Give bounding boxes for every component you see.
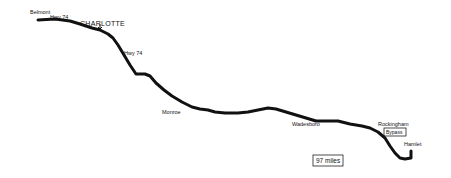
rockingham-bypass-box: Bypass: [384, 128, 406, 136]
label-hwy74-south: Hwy 74: [124, 50, 142, 56]
route-map: Belmont Hwy 74 CHARLOTTE Hwy 74 Monroe W…: [0, 0, 451, 178]
label-distance: 97 miles: [316, 157, 341, 164]
label-hwy74-west: Hwy 74: [50, 14, 68, 20]
label-rockingham-bypass: Bypass: [386, 129, 403, 135]
label-hamlet: Hamlet: [404, 141, 422, 147]
label-rockingham: Rockingham: [378, 121, 409, 127]
label-belmont: Belmont: [30, 9, 51, 15]
distance-box: 97 miles: [313, 155, 343, 166]
label-monroe: Monroe: [162, 109, 181, 115]
label-charlotte: CHARLOTTE: [80, 20, 125, 27]
highway-74-route: [38, 19, 411, 159]
label-wadesboro: Wadesboro: [292, 121, 320, 127]
